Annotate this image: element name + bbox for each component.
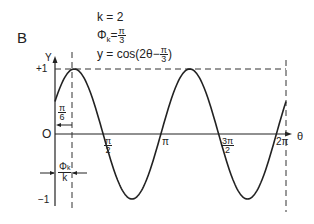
phi-symbol: Φ — [97, 28, 107, 42]
equation-y: y = cos(2θ−π3) — [97, 46, 172, 63]
phi-equals: = — [111, 28, 118, 42]
equation-phi: Φk=π3 — [97, 27, 126, 47]
x-axis-label: θ — [297, 130, 303, 142]
y-axis-label: Y — [45, 52, 52, 63]
pi6-arrow-icon — [56, 123, 61, 127]
tick-pi-over-2: π2 — [104, 137, 112, 154]
y-prefix: y = cos(2θ− — [97, 47, 160, 61]
phase-shift-label: Φkk — [58, 162, 71, 182]
phi-fraction: π3 — [118, 27, 126, 44]
plot-canvas — [0, 0, 314, 224]
origin-label: O — [42, 127, 51, 141]
equation-k: k = 2 — [97, 10, 123, 24]
y-fraction: π3 — [160, 46, 168, 63]
shift-arrow-right-icon — [72, 171, 77, 175]
tick-pi-over-6: π6 — [58, 104, 66, 121]
y-axis-arrow-icon — [53, 56, 58, 63]
y-suffix: ) — [168, 47, 172, 61]
y-minus-one-label: −1 — [38, 194, 49, 205]
tick-3pi-over-2: 3π2 — [221, 137, 234, 154]
tick-pi: π — [162, 136, 169, 147]
y-plus-one-label: +1 — [36, 63, 47, 74]
shift-arrow-left-icon — [50, 171, 55, 175]
tick-2pi: 2π — [276, 136, 288, 147]
panel-label: B — [17, 29, 27, 46]
